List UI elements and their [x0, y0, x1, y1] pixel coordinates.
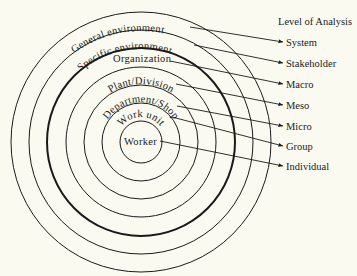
- ring-label-worker: Worker: [124, 136, 157, 147]
- level-stakeholder: Stakeholder: [286, 58, 337, 69]
- level-micro: Micro: [286, 121, 312, 132]
- arrow-organization-to-macro: [170, 61, 283, 84]
- ring-label-plant-division: Plant/Division: [106, 75, 177, 95]
- arrow-plant-to-meso: [176, 84, 283, 105]
- level-macro: Macro: [286, 79, 313, 90]
- arrow-general-to-system: [190, 27, 283, 42]
- level-individual: Individual: [286, 161, 329, 172]
- level-meso: Meso: [286, 100, 309, 111]
- level-of-analysis-heading: Level of Analysis: [278, 16, 352, 27]
- arrow-specific-to-stakeholder: [194, 45, 283, 63]
- connector-arrows: [160, 27, 283, 166]
- arrow-work-unit-to-group: [172, 117, 283, 146]
- ring-label-work-unit: Work unit: [115, 108, 167, 128]
- levels-of-analysis-diagram: General environment Specific environment…: [0, 0, 357, 276]
- ring-label-organization: Organization: [113, 53, 172, 64]
- level-group: Group: [286, 141, 313, 152]
- level-system: System: [286, 37, 317, 48]
